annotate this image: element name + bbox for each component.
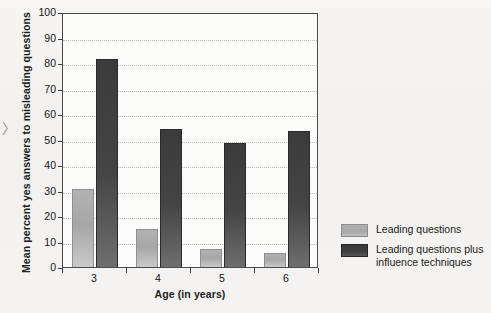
y-tick-label-40: 40 [30,159,56,171]
left-edge-chevron-icon: 〉 [2,121,14,135]
plot-area [62,13,318,268]
y-tick-label-10: 10 [30,236,56,248]
bar-age-5-series-2 [224,143,246,267]
bar-age-6-series-2 [288,131,310,267]
y-tick-label-70: 70 [30,83,56,95]
legend-swatch-dark [341,244,368,257]
y-tick-label-60: 60 [30,108,56,120]
legend-item-leading-questions-plus-influence: Leading questions plus influence techniq… [341,243,483,268]
x-tick-mark-4 [318,268,319,273]
x-tick-label-5: 5 [207,272,237,284]
y-tick-label-50: 50 [30,134,56,146]
y-tick-label-0: 0 [30,261,56,273]
x-tick-mark-2 [190,268,191,273]
chart-page: 〉 Mean percent yes answers to misleading… [0,0,491,313]
x-axis-label: Age (in years) [62,288,318,300]
legend-item-leading-questions: Leading questions [341,223,483,237]
x-tick-mark-1 [126,268,127,273]
bar-age-5-series-1 [200,249,222,267]
gridline-90 [63,40,317,41]
x-tick-mark-3 [254,268,255,273]
x-tick-mark-0 [62,268,63,273]
y-tick-label-90: 90 [30,32,56,44]
legend-label-1: Leading questions plus influence techniq… [376,243,483,268]
bar-age-6-series-1 [264,253,286,267]
bar-age-4-series-2 [160,129,182,267]
y-tick-label-100: 100 [30,6,56,18]
y-tick-label-80: 80 [30,57,56,69]
legend-label-0: Leading questions [376,223,461,236]
bar-age-4-series-1 [136,229,158,267]
y-tick-label-20: 20 [30,210,56,222]
bar-age-3-series-1 [72,189,94,267]
x-tick-label-3: 3 [79,272,109,284]
y-tick-label-30: 30 [30,185,56,197]
legend-swatch-light [341,224,368,237]
chart-legend: Leading questions Leading questions plus… [341,223,483,274]
plot-inner [63,14,317,267]
bar-age-3-series-2 [96,59,118,267]
x-tick-label-4: 4 [143,272,173,284]
x-tick-label-6: 6 [271,272,301,284]
